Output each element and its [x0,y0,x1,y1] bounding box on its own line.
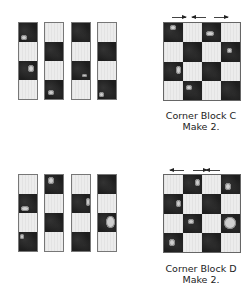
dark-square [202,194,221,213]
dark-square [72,61,90,80]
floral-motif-icon [170,25,176,30]
floral-motif-icon [48,177,54,184]
floral-motif-icon [176,66,181,74]
light-square [183,233,202,252]
dark-square [19,232,37,251]
corner-block-c [163,22,241,101]
light-square [98,194,116,213]
dark-square [164,23,183,42]
dark-square [183,42,202,61]
pressing-arrow [192,17,206,18]
dark-square [45,213,63,232]
pressing-arrow [214,17,228,18]
floral-motif-icon [206,31,214,36]
strip-d-4 [97,174,117,252]
caption-quantity: Make 2. [151,274,251,285]
dark-square [98,42,116,61]
dark-square [98,213,116,232]
light-square [183,23,202,42]
light-square [72,175,90,194]
light-square [98,232,116,251]
pressing-arrow [206,170,220,171]
caption-title: Corner Block C [151,110,251,121]
floral-motif-icon [106,216,115,228]
floral-motif-icon [225,183,231,190]
light-square [221,23,240,42]
light-square [19,80,37,99]
dark-square [45,42,63,61]
strip-c-3 [71,22,91,100]
light-square [221,233,240,252]
light-square [202,42,221,61]
floral-motif-icon [82,74,87,77]
corner-block-d [163,174,241,253]
light-square [164,81,183,100]
dark-square [72,232,90,251]
light-square [98,23,116,42]
floral-motif-icon [99,92,104,97]
dark-square [98,175,116,194]
dark-square [183,175,202,194]
dark-square [19,194,37,213]
dark-square [72,194,90,213]
floral-motif-icon [227,48,232,53]
pressing-arrow [172,17,186,18]
light-square [202,214,221,233]
floral-motif-icon [176,200,181,207]
floral-motif-icon [169,239,175,246]
dark-square [202,233,221,252]
light-square [19,175,37,194]
caption-quantity: Make 2. [151,121,251,132]
dark-square [221,175,240,194]
light-square [221,62,240,81]
dark-square [202,23,221,42]
light-square [45,61,63,80]
floral-motif-icon [28,65,34,72]
dark-square [45,175,63,194]
floral-motif-icon [21,35,27,40]
light-square [45,23,63,42]
light-square [98,61,116,80]
dark-square [183,81,202,100]
light-square [183,62,202,81]
dark-square [45,80,63,99]
dark-square [221,214,240,233]
dark-square [72,23,90,42]
light-square [221,194,240,213]
dark-square [164,62,183,81]
strip-d-3 [71,174,91,252]
light-square [202,81,221,100]
strip-c-4 [97,22,117,100]
light-square [164,214,183,233]
light-square [45,232,63,251]
floral-motif-icon [48,90,54,95]
light-square [45,194,63,213]
strip-d-2 [44,174,64,252]
dark-square [19,61,37,80]
light-square [183,194,202,213]
floral-motif-icon [224,217,236,229]
floral-motif-icon [195,179,200,186]
light-square [72,42,90,61]
caption-block-d: Corner Block D Make 2. [151,263,251,285]
light-square [19,213,37,232]
dark-square [202,62,221,81]
dark-square [19,23,37,42]
strip-c-2 [44,22,64,100]
dark-square [164,233,183,252]
dark-square [221,81,240,100]
dark-square [221,42,240,61]
strip-d-1 [18,174,38,252]
floral-motif-icon [20,234,24,239]
strip-c-1 [18,22,38,100]
dark-square [164,194,183,213]
dark-square [183,214,202,233]
floral-motif-icon [186,85,192,90]
caption-block-c: Corner Block C Make 2. [151,110,251,132]
floral-motif-icon [21,206,29,211]
light-square [19,42,37,61]
light-square [72,80,90,99]
light-square [72,213,90,232]
light-square [164,42,183,61]
floral-motif-icon [86,198,90,206]
